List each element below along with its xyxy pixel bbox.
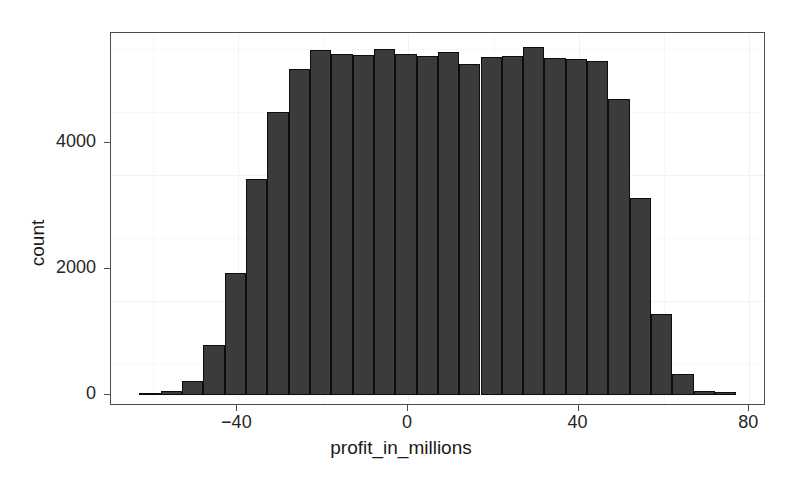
- histogram-bar: [459, 64, 480, 395]
- histogram-bar: [267, 112, 288, 396]
- histogram-bar: [289, 69, 310, 395]
- x-tick-label: 40: [538, 412, 618, 433]
- histogram-bar: [331, 54, 352, 395]
- histogram-bar: [630, 198, 651, 395]
- histogram-bar: [225, 273, 246, 395]
- x-tick-mark: [407, 405, 408, 411]
- histogram-bar: [246, 179, 267, 395]
- histogram-bar: [672, 374, 693, 395]
- x-tick-label: −40: [196, 412, 276, 433]
- x-tick-mark: [748, 405, 749, 411]
- histogram-bar: [523, 47, 544, 395]
- y-tick-mark: [104, 142, 110, 143]
- histogram-bar: [502, 56, 523, 395]
- histogram-bar: [310, 50, 331, 395]
- histogram-figure: 020004000 −4004080 profit_in_millions co…: [0, 0, 802, 477]
- histogram-bar: [608, 99, 629, 395]
- histogram-bar: [417, 56, 438, 395]
- gridline-major-vertical: [749, 33, 750, 404]
- histogram-bar: [566, 59, 587, 395]
- histogram-bar: [715, 392, 736, 395]
- histogram-bar: [481, 57, 502, 395]
- histogram-bar: [587, 61, 608, 395]
- histogram-bar: [182, 381, 203, 395]
- histogram-bar: [438, 52, 459, 395]
- y-tick-label: 4000: [16, 131, 96, 152]
- x-tick-mark: [236, 405, 237, 411]
- y-tick-label: 0: [16, 383, 96, 404]
- plot-panel: [110, 32, 765, 405]
- histogram-bar: [694, 391, 715, 395]
- x-tick-label: 80: [708, 412, 788, 433]
- y-axis-title: count: [27, 183, 49, 303]
- histogram-bar: [544, 58, 565, 395]
- y-tick-mark: [104, 268, 110, 269]
- x-axis-title: profit_in_millions: [0, 437, 802, 459]
- histogram-bar: [353, 55, 374, 395]
- histogram-bar: [651, 314, 672, 395]
- histogram-bar: [139, 393, 160, 395]
- histogram-bar: [395, 54, 416, 395]
- histogram-bar: [374, 49, 395, 396]
- y-tick-mark: [104, 394, 110, 395]
- histogram-bar: [203, 345, 224, 395]
- x-tick-mark: [578, 405, 579, 411]
- x-tick-label: 0: [367, 412, 447, 433]
- gridline-minor-vertical: [153, 33, 154, 404]
- histogram-bar: [161, 391, 182, 395]
- gridline-minor-horizontal: [111, 49, 764, 50]
